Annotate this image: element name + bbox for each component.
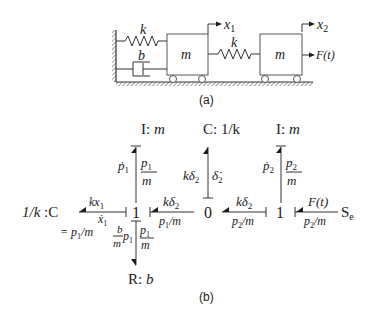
bond-1-to-I-left: ṗ1 p1 m: [117, 146, 157, 203]
bond-Se-to-1-right: F(t) p2/m: [295, 194, 338, 230]
mass-1-wheel-left: [170, 76, 177, 83]
force-label: F(t): [315, 48, 335, 62]
mass-2-wheel-left: [262, 76, 269, 83]
node-C-top: C: 1/k: [203, 121, 241, 137]
svg-text:ẋ1: ẋ1: [97, 212, 107, 228]
svg-text:m: m: [113, 237, 121, 249]
damper: [116, 62, 167, 76]
svg-text:p1: p1: [140, 155, 152, 172]
node-I-left: I: m: [141, 121, 165, 137]
middle-spring: [208, 49, 260, 59]
svg-text:kδ2: kδ2: [183, 168, 199, 185]
svg-text:m: m: [141, 238, 150, 252]
x2-label: x2: [316, 17, 328, 34]
figure: k b m x1 k m x2 F(t) (: [0, 0, 377, 319]
bond-0-to-1-left: kδ2 p1/m: [150, 194, 194, 230]
svg-text:m: m: [287, 173, 296, 188]
svg-text:kδ2: kδ2: [163, 194, 179, 211]
svg-text:p1: p1: [139, 223, 150, 239]
bond-graph: I: m C: 1/k I: m 1/k :C 1 0 1 Se R: b ṗ1…: [22, 121, 354, 304]
svg-text:ṗ1: ṗ1: [117, 158, 129, 175]
junction-1-right: 1: [276, 204, 284, 221]
bond-1-right-to-0: kδ2 p2/m: [222, 194, 266, 230]
mass-2-wheel-right: [294, 76, 301, 83]
svg-text:= p1/m: = p1/m: [60, 225, 93, 241]
svg-text:m: m: [142, 173, 151, 188]
svg-text:F(t): F(t): [307, 194, 328, 209]
left-spring-label: k: [140, 22, 147, 37]
svg-text:p1: p1: [122, 229, 133, 245]
damper-label: b: [138, 48, 145, 63]
mechanical-system: k b m x1 k m x2 F(t) (: [112, 17, 335, 107]
left-spring: [116, 36, 167, 46]
caption-a: (a): [199, 93, 214, 107]
svg-text:p2/m: p2/m: [303, 214, 326, 230]
junction-0: 0: [204, 204, 212, 221]
x1-label: x1: [223, 17, 235, 34]
mass-1-wheel-right: [199, 76, 206, 83]
mass-2-label: m: [275, 47, 285, 62]
svg-text:kx1: kx1: [89, 195, 104, 211]
node-I-right: I: m: [276, 121, 300, 137]
node-R-bottom: R: b: [128, 271, 154, 287]
svg-text:kδ2: kδ2: [236, 194, 252, 211]
mass-1-label: m: [181, 47, 191, 62]
bond-1-to-R: b m p1 p1 m: [113, 221, 154, 266]
middle-spring-label: k: [231, 35, 238, 50]
node-C-left: 1/k :C: [22, 204, 58, 220]
svg-text:ṗ2: ṗ2: [262, 158, 274, 175]
bond-0-to-C-top: kδ2 δ̇2: [183, 147, 223, 198]
junction-1-left: 1: [132, 204, 140, 221]
bond-1-right-to-I-right: ṗ2 p2 m: [262, 146, 302, 203]
caption-b: (b): [199, 290, 214, 304]
svg-text:δ̇2: δ̇2: [212, 168, 223, 185]
node-Se: Se: [341, 204, 354, 222]
svg-text:p2/m: p2/m: [231, 214, 254, 230]
svg-text:p1/m: p1/m: [158, 214, 181, 230]
svg-text:p2: p2: [285, 155, 297, 172]
